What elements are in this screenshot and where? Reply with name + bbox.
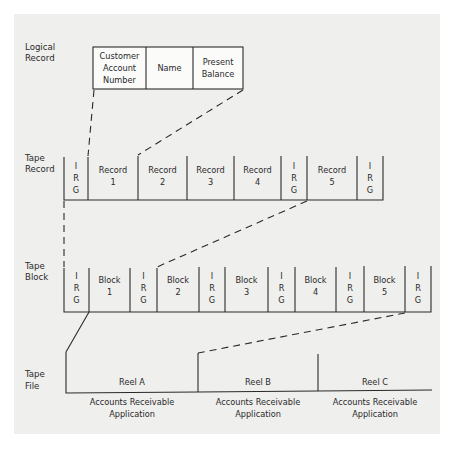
logical-record-field-text: Present	[203, 57, 235, 67]
irg-cell-text: R	[347, 283, 353, 293]
reel-caption-text: Accounts Receivable	[333, 397, 417, 407]
block-cell-text: Block	[304, 275, 326, 285]
reel-caption-text: Accounts Receivable	[216, 397, 300, 407]
irg-cell-text: I	[75, 161, 77, 171]
reel-label-text: Reel C	[362, 377, 388, 387]
irg-cell-text: R	[279, 283, 285, 293]
irg-cell-text: I	[293, 161, 295, 171]
block-cell-text: 5	[382, 287, 387, 297]
irg-cell-text: G	[415, 295, 421, 305]
irg-cell-text: R	[74, 283, 80, 293]
row-label-line: File	[25, 381, 39, 391]
row-label-tape-block: Tape Block	[24, 261, 48, 282]
record-cell-text: 4	[255, 177, 260, 187]
tape-hierarchy-diagram: Logical Record Tape Record Tape Block Ta…	[0, 0, 453, 449]
irg-cell-text: I	[280, 271, 282, 281]
block-cell-text: Block	[235, 275, 257, 285]
irg-cell-text: G	[347, 295, 353, 305]
row-label-line: Tape	[24, 369, 45, 379]
block-cell-text: 3	[244, 287, 249, 297]
reel-label: Reel B	[245, 377, 271, 387]
logical-record-field-text: Balance	[202, 69, 235, 79]
irg-cell-text: G	[291, 185, 297, 195]
irg-cell-text: G	[73, 295, 79, 305]
block-cell-text: 1	[107, 287, 112, 297]
logical-record-field-text: Number	[103, 75, 137, 85]
record-cell-text: Record	[99, 165, 127, 175]
logical-record-field: CustomerAccountNumber	[100, 51, 140, 85]
irg-cell-text: I	[417, 271, 419, 281]
row-label-line: Logical	[25, 42, 55, 52]
irg-cell-text: G	[73, 185, 79, 195]
row-label-line: Tape	[24, 261, 45, 271]
reel-label-text: Reel B	[245, 377, 271, 387]
reel-caption-text: Application	[352, 409, 398, 419]
record-cell-text: 3	[208, 177, 213, 187]
logical-record-field: Name	[157, 63, 181, 73]
row-label-line: Block	[25, 272, 48, 282]
row-label-line: Record	[25, 164, 55, 174]
record-cell-text: Record	[196, 165, 224, 175]
block-cell-text: Block	[373, 275, 395, 285]
reel-label: Reel A	[119, 377, 145, 387]
logical-record-field-text: Customer	[100, 51, 140, 61]
record-cell-text: 1	[110, 177, 115, 187]
record-cell-text: Record	[243, 165, 271, 175]
tape-file-reels: Reel AAccounts ReceivableApplicationReel…	[90, 377, 417, 419]
irg-cell-text: I	[142, 271, 144, 281]
row-label-line: Tape	[24, 153, 45, 163]
irg-cell-text: I	[211, 271, 213, 281]
irg-cell-text: R	[141, 283, 147, 293]
record-cell-text: 5	[329, 177, 334, 187]
row-label-line: Record	[25, 53, 55, 63]
reel-caption-text: Accounts Receivable	[90, 397, 174, 407]
reel-label-text: Reel A	[119, 377, 145, 387]
diagram-svg: Logical Record Tape Record Tape Block Ta…	[0, 0, 453, 449]
irg-cell-text: G	[209, 295, 215, 305]
irg-cell-text: R	[415, 283, 421, 293]
irg-cell-text: G	[278, 295, 284, 305]
irg-cell-text: R	[209, 283, 215, 293]
irg-cell-text: I	[75, 271, 77, 281]
irg-cell-text: R	[291, 173, 297, 183]
block-cell-text: 2	[175, 287, 180, 297]
logical-record-field-text: Account	[103, 63, 137, 73]
irg-cell-text: R	[367, 173, 373, 183]
irg-cell-text: R	[73, 173, 79, 183]
row-label-logical-record: Logical Record	[25, 42, 55, 63]
block-cell-text: Block	[167, 275, 189, 285]
logical-record-field-text: Name	[157, 63, 181, 73]
irg-cell-text: I	[349, 271, 351, 281]
reel-caption-text: Application	[109, 409, 155, 419]
block-cell-text: 4	[313, 287, 318, 297]
record-cell-text: 2	[160, 177, 165, 187]
irg-cell-text: G	[367, 185, 373, 195]
record-cell-text: Record	[148, 165, 176, 175]
irg-cell-text: G	[140, 295, 146, 305]
reel-caption-text: Application	[235, 409, 281, 419]
record-cell-text: Record	[318, 165, 346, 175]
block-cell-text: Block	[98, 275, 120, 285]
irg-cell-text: I	[369, 161, 371, 171]
reel-label: Reel C	[362, 377, 388, 387]
